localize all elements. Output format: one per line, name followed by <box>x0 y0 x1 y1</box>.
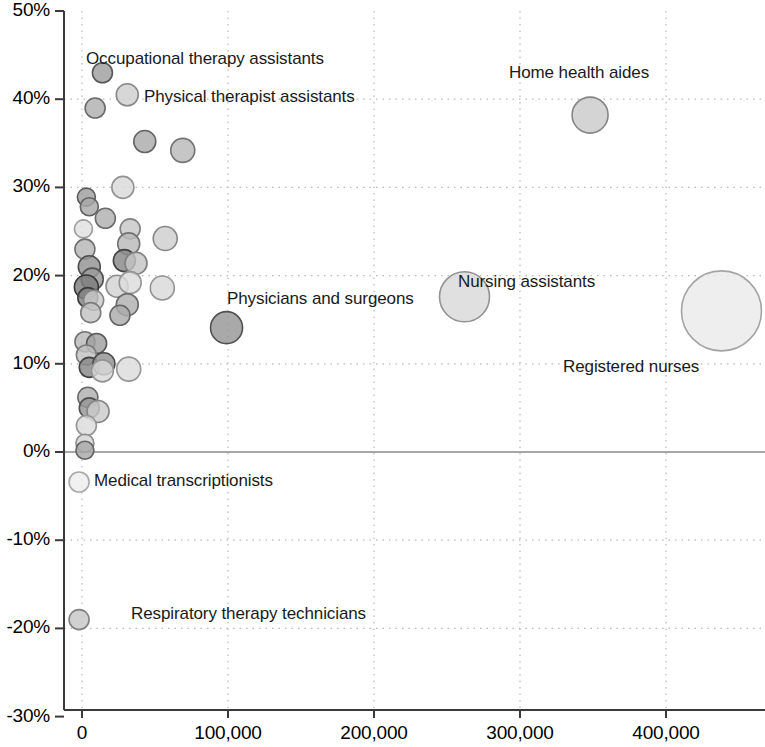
data-bubble[interactable] <box>76 441 94 459</box>
data-bubble[interactable] <box>153 227 177 251</box>
y-axis-tick-label: 40% <box>0 87 50 109</box>
data-bubble[interactable] <box>116 84 138 106</box>
x-axis-tick-label: 0 <box>12 722 152 744</box>
y-axis-tick-label: 30% <box>0 175 50 197</box>
point-annotation-label: Respiratory therapy technicians <box>131 604 366 624</box>
data-bubble[interactable] <box>74 220 92 238</box>
y-axis-tick-label: -20% <box>0 616 50 638</box>
data-bubble[interactable] <box>80 198 98 216</box>
data-bubble[interactable] <box>134 131 156 153</box>
data-bubble[interactable] <box>171 138 195 162</box>
x-axis-tick-label: 100,000 <box>158 722 298 744</box>
y-axis-tick-label: -10% <box>0 528 50 550</box>
data-bubble[interactable] <box>150 276 174 300</box>
data-bubble[interactable] <box>681 271 761 351</box>
data-bubble[interactable] <box>119 272 141 294</box>
x-axis-tick-label: 200,000 <box>304 722 444 744</box>
data-bubble[interactable] <box>81 303 101 323</box>
bubble-chart: 50%40%30%20%10%0%-10%-20%-30%0100,000200… <box>0 0 765 747</box>
point-annotation-label: Occupational therapy assistants <box>86 49 324 69</box>
data-bubble[interactable] <box>69 472 89 492</box>
point-annotation-label: Physicians and surgeons <box>227 289 414 309</box>
point-annotation-label: Registered nurses <box>563 357 699 377</box>
y-axis-tick-label: 10% <box>0 352 50 374</box>
point-annotation-label: Medical transcriptionists <box>94 471 273 491</box>
data-bubble[interactable] <box>211 312 243 344</box>
point-annotation-label: Home health aides <box>509 63 649 83</box>
data-bubble[interactable] <box>76 416 96 436</box>
y-axis-tick-label: 0% <box>0 440 50 462</box>
data-bubble[interactable] <box>69 610 89 630</box>
data-bubble[interactable] <box>112 176 134 198</box>
x-axis-tick-label: 300,000 <box>450 722 590 744</box>
data-bubble[interactable] <box>91 360 113 382</box>
x-axis-tick-label: 400,000 <box>596 722 736 744</box>
data-bubble[interactable] <box>110 305 130 325</box>
data-bubble[interactable] <box>85 98 105 118</box>
y-axis-tick-label: 20% <box>0 264 50 286</box>
point-annotation-label: Physical therapist assistants <box>144 87 355 107</box>
data-bubble[interactable] <box>117 357 141 381</box>
point-annotation-label: Nursing assistants <box>458 272 595 292</box>
data-bubble[interactable] <box>572 97 608 133</box>
y-axis-tick-label: 50% <box>0 0 50 21</box>
data-bubble[interactable] <box>95 208 115 228</box>
data-bubble[interactable] <box>125 252 147 274</box>
